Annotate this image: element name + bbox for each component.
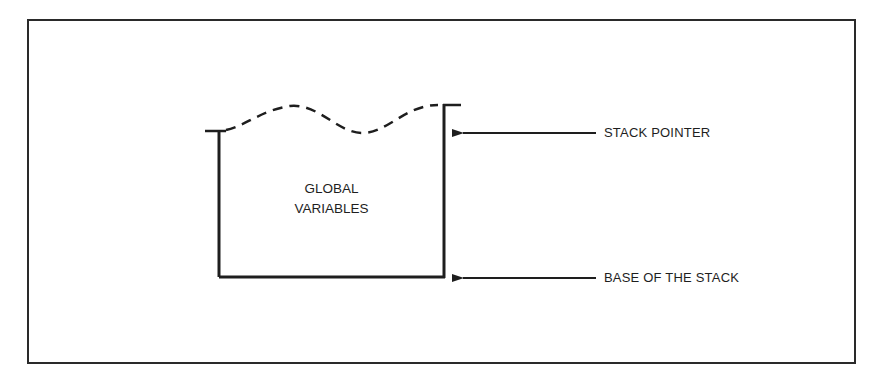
stack-pointer-label: STACK POINTER: [604, 125, 710, 140]
base-of-stack-label: BASE OF THE STACK: [604, 270, 739, 285]
stack-contents-label: GLOBAL VARIABLES: [219, 179, 444, 219]
stack-contents-line-1: GLOBAL: [219, 179, 444, 199]
stack-contents-line-2: VARIABLES: [219, 199, 444, 219]
stack-wavy-top: [226, 105, 438, 133]
